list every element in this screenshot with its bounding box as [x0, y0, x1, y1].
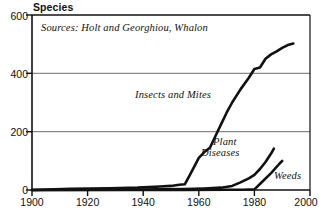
y-tick-label-0: 0: [0, 184, 28, 196]
x-tick-label-1900: 1900: [20, 196, 43, 208]
series-label-weeds: Weeds: [274, 170, 301, 181]
x-tick-label-1920: 1920: [76, 196, 99, 208]
y-tick-label-200-wrap: 200: [0, 126, 28, 127]
y-tick-label-0-wrap: 0: [0, 184, 28, 185]
plot-background: [32, 15, 310, 190]
y-tick-label-400: 400: [0, 68, 28, 80]
series-label-insects: Insects and Mites: [135, 89, 211, 100]
y-tick-label-400-wrap: 400: [0, 68, 28, 69]
y-axis-title: Species: [33, 2, 73, 13]
species-resistance-chart: Species 600 400 200 0 1900 1920 1940 196…: [0, 0, 319, 220]
y-tick-label-600: 600: [0, 10, 28, 22]
series-label-plant-diseases-line1: Plant: [213, 136, 237, 147]
x-tick-label-1940: 1940: [132, 196, 155, 208]
source-note: Sources: Holt and Georghiou, Whalon: [41, 22, 208, 33]
x-tick-label-2000: 2000: [294, 196, 317, 208]
x-tick-label-1960: 1960: [187, 196, 210, 208]
series-label-plant-diseases-line2: Diseases: [201, 147, 240, 158]
series-label-plant-diseases: Plant Diseases: [213, 136, 240, 158]
y-tick-label-200: 200: [0, 126, 28, 138]
y-tick-label-600-wrap: 600: [0, 10, 28, 11]
x-tick-label-1980: 1980: [243, 196, 266, 208]
